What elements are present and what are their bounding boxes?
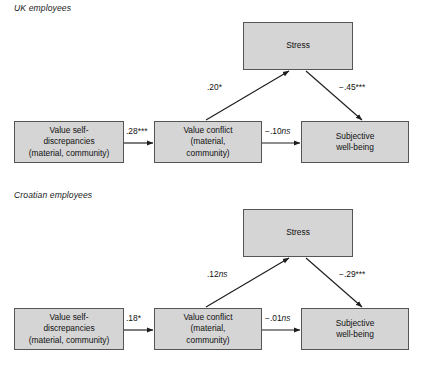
edge-mediator-to-stress-uk	[206, 71, 289, 120]
path-label-mediator-stress-uk: .20*	[207, 82, 222, 92]
edge-mediator-to-stress-croatia	[206, 258, 289, 307]
path-label-mediator-outcome-uk: −.10ns	[265, 126, 290, 136]
edge-stress-to-outcome-croatia	[306, 258, 362, 307]
node-outcome-label-croatia: Subjectivewell-being	[333, 318, 378, 341]
path-label-predictor-mediator-uk: .28***	[126, 126, 147, 136]
node-value-self-discrepancies-croatia: Value self-discrepancies(material, commu…	[14, 308, 124, 350]
panel-croatian-employees: Croatian employees Stress Value self-dis…	[0, 187, 422, 375]
node-value-self-discrepancies-uk: Value self-discrepancies(material, commu…	[14, 121, 124, 163]
node-subjective-well-being-croatia: Subjectivewell-being	[301, 308, 409, 350]
node-stress-label-uk: Stress	[283, 40, 313, 51]
node-stress-label-croatia: Stress	[283, 227, 313, 238]
edge-stress-to-outcome-uk	[306, 71, 362, 120]
node-value-conflict-croatia: Value conflict(material,community)	[154, 308, 262, 350]
path-label-mediator-outcome-croatia: −.01ns	[265, 313, 290, 323]
node-value-conflict-uk: Value conflict(material,community)	[154, 121, 262, 163]
node-predictor-label-croatia: Value self-discrepancies(material, commu…	[26, 312, 113, 346]
path-diagram-figure: UK employees Stress Value self-discrepan…	[0, 0, 422, 375]
path-label-predictor-mediator-croatia: .18*	[126, 313, 141, 323]
node-outcome-label-uk: Subjectivewell-being	[333, 131, 378, 154]
node-mediator-label-uk: Value conflict(material,community)	[180, 125, 235, 159]
node-mediator-label-croatia: Value conflict(material,community)	[180, 312, 235, 346]
panel-uk-employees: UK employees Stress Value self-discrepan…	[0, 0, 422, 188]
path-label-stress-outcome-uk: −.45***	[339, 82, 365, 92]
path-label-mediator-stress-croatia: .12ns	[207, 269, 228, 279]
path-label-stress-outcome-croatia: −.29***	[339, 269, 365, 279]
node-predictor-label-uk: Value self-discrepancies(material, commu…	[26, 125, 113, 159]
node-subjective-well-being-uk: Subjectivewell-being	[301, 121, 409, 163]
node-stress-uk: Stress	[243, 22, 353, 70]
node-stress-croatia: Stress	[243, 209, 353, 257]
